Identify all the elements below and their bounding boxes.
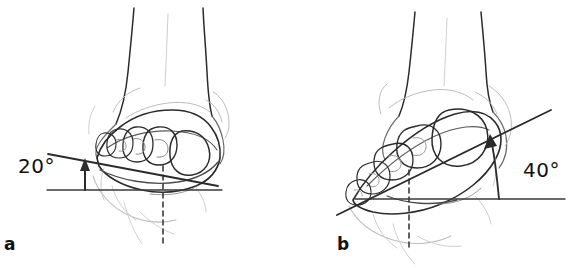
- lateral-faint-contour: [475, 92, 497, 114]
- toe-second: [143, 127, 177, 165]
- toe-second-nail: [155, 139, 168, 157]
- metatarsal-crease: [367, 127, 489, 186]
- panel-a: [0, 0, 289, 268]
- panel-caption-a: a: [4, 236, 15, 253]
- leg-right-contour: [481, 12, 493, 112]
- examiner-finger-1: [373, 214, 397, 248]
- examiner-finger-2: [124, 202, 142, 244]
- panel-b-illustration: [289, 0, 578, 268]
- medial-faint-contour: [89, 106, 95, 134]
- plantar-sole-outline: [97, 110, 220, 192]
- leg-left-contour: [116, 8, 134, 124]
- toe-fourth: [107, 129, 133, 158]
- panel-b: [289, 0, 578, 268]
- panel-a-illustration: [0, 0, 289, 268]
- dorsum-faint-contour: [389, 89, 473, 108]
- plantar-arch-band: [387, 196, 457, 203]
- examiner-finger-2: [393, 224, 415, 264]
- dorsum-faint-contour-2: [113, 88, 140, 112]
- examiner-hand-contour: [349, 206, 451, 243]
- examiner-finger-3: [417, 236, 461, 247]
- examiner-thumb: [196, 188, 206, 212]
- leg-right-contour: [203, 8, 212, 116]
- toe-third-nail: [389, 155, 401, 171]
- angle-arrow-up: [80, 158, 90, 190]
- toe-fourth: [357, 161, 390, 194]
- examiner-finger-3: [140, 212, 174, 234]
- angle-label-a: 20°: [18, 156, 55, 176]
- figure-container: 20° 40° a b: [0, 0, 578, 268]
- panel-caption-b: b: [337, 236, 349, 253]
- achilles-shading-line: [165, 14, 168, 86]
- leg-left-contour: [399, 12, 415, 116]
- achilles-shading-line: [444, 18, 447, 86]
- examiner-thumb: [475, 196, 491, 224]
- angle-label-b: 40°: [523, 160, 560, 180]
- dorsum-faint-contour-2: [379, 84, 387, 114]
